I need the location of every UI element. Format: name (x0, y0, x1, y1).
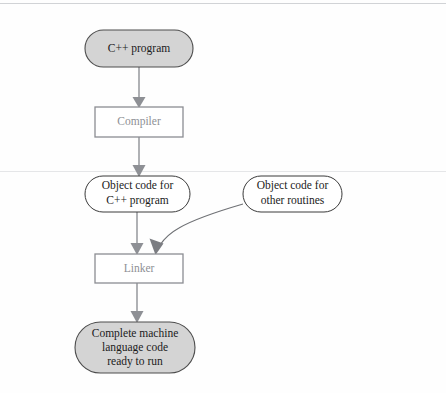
diagram-canvas: C++ program Compiler Object code for C++… (0, 0, 446, 393)
edge-compiler-to-object-code-cpp (133, 137, 146, 177)
node-complete-machine-code-label-line-2: language code (102, 341, 168, 354)
node-object-code-other[interactable]: Object code for other routines (243, 176, 342, 212)
node-object-code-cpp-label-line-2: C++ program (106, 194, 169, 207)
node-object-code-cpp[interactable]: Object code for C++ program (85, 176, 190, 212)
edge-cpp-program-to-compiler (133, 67, 146, 108)
node-compiler[interactable]: Compiler (95, 107, 183, 137)
node-linker[interactable]: Linker (95, 254, 183, 283)
node-object-code-other-label-line-2: other routines (261, 194, 325, 206)
edge-linker-to-complete-machine-code (131, 283, 144, 323)
node-object-code-other-label-line-1: Object code for (257, 179, 329, 192)
node-cpp-program[interactable]: C++ program (85, 30, 193, 67)
flowchart-svg: C++ program Compiler Object code for C++… (0, 0, 446, 393)
edge-object-code-cpp-to-linker (131, 212, 144, 255)
node-cpp-program-label-line-1: C++ program (108, 42, 171, 55)
node-object-code-cpp-label-line-1: Object code for (102, 179, 174, 192)
node-compiler-label-line-1: Compiler (117, 115, 161, 128)
node-complete-machine-code[interactable]: Complete machine language code ready to … (75, 322, 195, 373)
node-complete-machine-code-label-line-1: Complete machine (92, 327, 179, 340)
node-linker-label-line-1: Linker (124, 262, 155, 274)
node-complete-machine-code-label-line-3: ready to run (107, 355, 163, 368)
